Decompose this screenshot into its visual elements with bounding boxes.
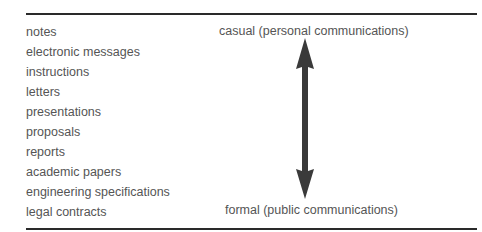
document-type-item: proposals <box>26 122 170 142</box>
document-type-item: electronic messages <box>26 42 170 62</box>
document-type-item: instructions <box>26 62 170 82</box>
document-type-item: reports <box>26 142 170 162</box>
document-type-item: letters <box>26 82 170 102</box>
document-type-item: notes <box>26 22 170 42</box>
document-type-item: legal contracts <box>26 202 170 222</box>
bottom-rule <box>26 228 477 230</box>
document-type-list: notes electronic messages instructions l… <box>26 22 170 222</box>
formal-label: formal (public communications) <box>225 202 398 218</box>
document-type-item: presentations <box>26 102 170 122</box>
double-headed-arrow-icon <box>290 36 320 202</box>
top-rule <box>26 13 477 15</box>
document-type-item: engineering specifications <box>26 182 170 202</box>
document-type-item: academic papers <box>26 162 170 182</box>
